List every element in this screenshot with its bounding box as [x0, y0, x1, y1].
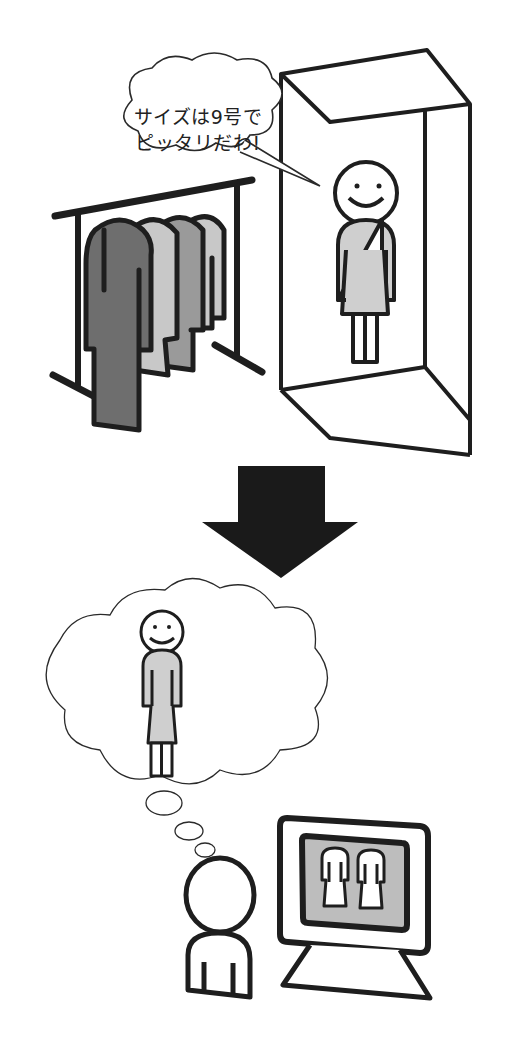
speech-bubble-text: サイズは9号で ピッタリだわ! — [118, 104, 278, 156]
viewer-person-icon — [186, 858, 254, 997]
monitor-icon — [280, 818, 430, 998]
illustration-canvas — [0, 0, 514, 1054]
clothes-rack-icon — [53, 180, 262, 430]
woman-figure-icon — [335, 162, 397, 362]
down-arrow-icon — [202, 466, 358, 578]
speech-line-2: ピッタリだわ! — [118, 130, 278, 156]
speech-line-1: サイズは9号で — [118, 104, 278, 130]
